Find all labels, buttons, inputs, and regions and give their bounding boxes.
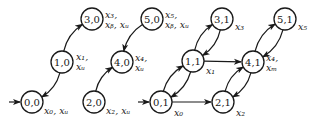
state-label: 1,0: [54, 57, 70, 68]
transition-edge: [195, 24, 213, 50]
state-label: 3,1: [214, 14, 230, 25]
state-node: 0,1x₀: [138, 91, 183, 118]
state-output-label: x₂, xᵤ: [106, 105, 131, 116]
state-node: 5,1x₅: [274, 8, 307, 32]
state-output-label: x₀, xᵤ: [44, 105, 69, 116]
transition-edge: [233, 73, 251, 97]
diagram-canvas: 0,0x₀, xᵤ1,0x₁,xᵤ3,0x₃,xᵦ, xᵤ2,0x₂, xᵤ4,…: [0, 0, 313, 123]
state-output-label: x₅: [298, 21, 307, 32]
state-output-label: x₀: [174, 107, 183, 118]
state-node: 1,1x₁: [182, 50, 215, 76]
state-output-label: x₃: [235, 21, 244, 32]
transition-edge: [171, 72, 191, 97]
transition-edge: [203, 30, 221, 56]
transition-edge: [163, 66, 183, 91]
state-node: 2,1x₂: [212, 91, 245, 118]
state-label: 1,1: [185, 56, 201, 67]
state-label: 0,1: [153, 97, 169, 108]
state-output-label: x₂: [236, 107, 245, 118]
state-transition-diagram: 0,0x₀, xᵤ1,0x₁,xᵤ3,0x₃,xᵦ, xᵤ2,0x₂, xᵤ4,…: [0, 0, 313, 123]
state-label: 2,0: [86, 97, 102, 108]
transition-edge: [225, 67, 243, 91]
state-node: 1,0x₁,xᵤ: [51, 51, 88, 73]
state-label: 5,1: [277, 14, 293, 25]
state-node: 0,0x₀, xᵤ: [9, 91, 69, 116]
state-output-label: xᵦ, xᵤ: [105, 19, 129, 30]
state-label: 4,1: [245, 57, 261, 68]
state-output-label: xₘ: [266, 62, 277, 73]
state-node: 4,0x₄,xᵤ: [111, 51, 147, 73]
state-label: 0,0: [24, 97, 40, 108]
state-label: 5,0: [144, 14, 160, 25]
state-node: 2,0x₂, xᵤ: [83, 91, 131, 116]
state-output-label: x₁: [206, 65, 215, 76]
transition-edge: [96, 67, 113, 91]
state-node: 3,0x₃,xᵦ, xᵤ: [81, 8, 129, 30]
transition-edge: [42, 73, 60, 97]
nodes-layer: 0,0x₀, xᵤ1,0x₁,xᵤ3,0x₃,xᵦ, xᵤ2,0x₂, xᵤ4,…: [9, 8, 307, 118]
state-label: 2,1: [215, 97, 231, 108]
state-output-label: xᵦ, xᵤ: [165, 19, 189, 30]
transition-edge: [204, 61, 241, 62]
state-label: 3,0: [84, 14, 100, 25]
state-node: 4,1x₄,xₘ: [242, 51, 278, 73]
state-output-label: xᵤ: [135, 62, 144, 73]
state-output-label: xᵤ: [76, 61, 85, 72]
transition-edge: [64, 24, 83, 51]
transition-edge: [255, 24, 275, 51]
state-node: 5,0x₅,xᵦ, xᵤ: [141, 8, 189, 30]
state-label: 4,0: [114, 57, 130, 68]
state-node: 3,1x₃: [211, 8, 244, 32]
